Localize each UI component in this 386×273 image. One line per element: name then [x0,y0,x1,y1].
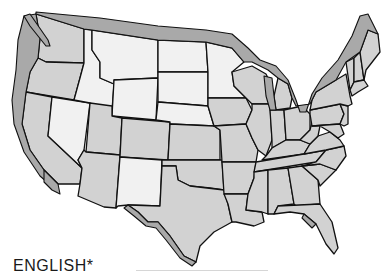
state-wyoming [112,78,158,120]
state-florida [274,204,338,254]
state-kansas [168,124,220,160]
legend-divider [136,270,268,271]
state-iowa [208,98,252,126]
us-map [0,0,386,273]
states-layer [22,14,380,262]
state-north-dakota [158,40,208,72]
state-new-mexico [116,157,162,208]
legend-label: ENGLISH* [13,257,93,273]
state-colorado [120,118,170,160]
state-south-dakota [158,72,208,106]
state-arizona [78,150,120,208]
